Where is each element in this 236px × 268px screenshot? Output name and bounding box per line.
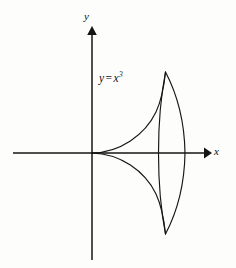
- curve-equation-label: y=x3: [99, 71, 123, 84]
- x-axis-arrow-icon: [204, 148, 212, 159]
- figure-container: y x y=x3: [0, 0, 236, 268]
- curve-equation-variable-y: y: [99, 72, 105, 84]
- x-axis-label: x: [214, 146, 219, 157]
- axes-group: [13, 26, 212, 260]
- y-axis-label: y: [84, 11, 89, 22]
- y-axis-arrow-icon: [87, 26, 97, 35]
- cubic-lower-branch-path: [92, 153, 166, 234]
- curve-equation-exponent: 3: [119, 70, 123, 79]
- plot-canvas: [0, 0, 236, 268]
